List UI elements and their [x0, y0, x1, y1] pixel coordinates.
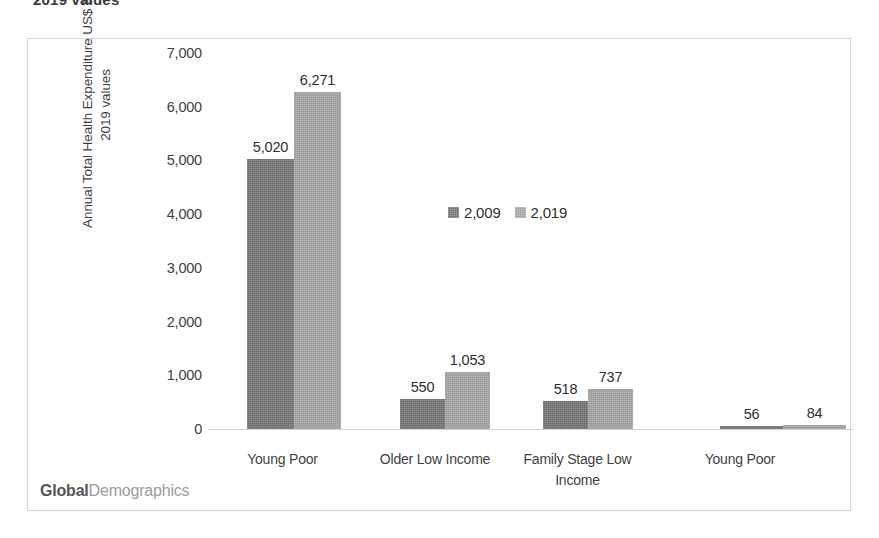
y-axis-tick-labels: 01,0002,0003,0004,0005,0006,0007,000	[124, 39, 202, 512]
x-axis-category-label: Family Stage Low Income	[510, 449, 645, 491]
legend-label-2009: 2,009	[464, 204, 501, 221]
y-axis-tick-4000: 4,000	[130, 206, 202, 222]
data-label: 6,271	[300, 72, 335, 88]
bar-2009-0[interactable]: 5,020	[247, 159, 294, 429]
chart-legend: 2,009 2,019	[448, 204, 567, 221]
legend-item-2019[interactable]: 2,019	[515, 204, 568, 221]
screenshot-page: 2019 values Annual Total Health Expendit…	[0, 0, 879, 538]
watermark-bold: Global	[40, 482, 89, 499]
y-axis-tick-2000: 2,000	[130, 314, 202, 330]
y-axis-tick-6000: 6,000	[130, 99, 202, 115]
y-axis-tick-7000: 7,000	[130, 45, 202, 61]
data-label: 84	[807, 405, 823, 421]
legend-swatch-icon-2009	[448, 207, 459, 218]
bar-2009-1[interactable]: 550	[400, 399, 445, 429]
y-axis-title: Annual Total Health Expenditure US$ Bns …	[79, 0, 115, 270]
y-axis-tick-5000: 5,000	[130, 152, 202, 168]
x-axis-category-label: Older Low Income	[360, 449, 510, 470]
y-axis-tick-1000: 1,000	[130, 367, 202, 383]
legend-label-2019: 2,019	[531, 204, 568, 221]
y-axis-title-line1: Annual Total Health Expenditure US$ Bns	[80, 0, 95, 228]
x-axis-category-label: Young Poor	[205, 449, 360, 470]
x-axis-category-label: Young Poor	[665, 449, 815, 470]
y-axis-tick-0: 0	[130, 421, 202, 437]
y-axis-tick-3000: 3,000	[130, 260, 202, 276]
bar-2009-2[interactable]: 518	[543, 401, 588, 429]
chart-frame: Annual Total Health Expenditure US$ Bns …	[27, 38, 851, 511]
data-label: 1,053	[450, 352, 485, 368]
legend-item-2009[interactable]: 2,009	[448, 204, 501, 221]
watermark-light: Demographics	[89, 482, 190, 499]
data-label: 518	[554, 381, 578, 397]
data-label: 550	[411, 379, 435, 395]
x-axis-line	[208, 429, 853, 430]
legend-swatch-icon-2019	[515, 207, 526, 218]
data-label: 737	[599, 369, 623, 385]
y-axis-title-line2: 2019 values	[97, 0, 115, 270]
data-label: 56	[744, 406, 760, 422]
bar-2019-0[interactable]: 6,271	[294, 92, 341, 429]
watermark-globaldemographics: GlobalDemographics	[40, 482, 189, 500]
bar-2019-1[interactable]: 1,053	[445, 372, 490, 429]
plot-area: 5,0206,271Young Poor5501,053Older Low In…	[210, 53, 848, 429]
data-label: 5,020	[253, 139, 288, 155]
bar-2019-2[interactable]: 737	[588, 389, 633, 429]
